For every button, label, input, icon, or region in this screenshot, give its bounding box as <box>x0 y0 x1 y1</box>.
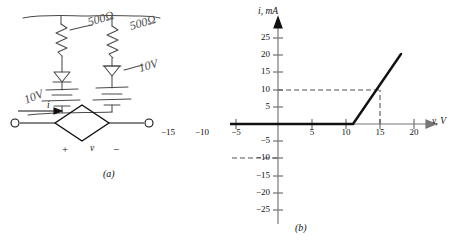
ytick-label--25: −25 <box>240 204 270 214</box>
svg-text:500Ω: 500Ω <box>86 8 116 29</box>
xtick-label-20: 20 <box>394 127 434 137</box>
svg-text:10V: 10V <box>22 86 47 107</box>
handwritten-circuit-sketch: 500Ω 500Ω 10V 10V <box>0 0 230 247</box>
diode-left-triangle <box>54 72 70 82</box>
resistor-right-symbol <box>107 26 118 58</box>
svg-text:10V: 10V <box>137 56 161 75</box>
ytick-label-25: 25 <box>244 32 270 42</box>
caption-panel-a: (a) <box>103 168 115 179</box>
left-terminal-node <box>11 119 19 127</box>
caption-panel-b: (b) <box>295 222 307 233</box>
black-box-diamond-symbol <box>55 105 109 141</box>
polarity-minus-label: − <box>113 143 119 155</box>
ytick-label-5: 5 <box>244 101 270 111</box>
ytick-label-20: 20 <box>244 49 270 59</box>
polarity-plus-label: + <box>62 143 68 155</box>
handwritten-label-10v-left: 10V <box>22 86 47 107</box>
panel-b-iv-characteristic: i, mA v, V −15 −10 −5 5 10 15 20 25 20 1… <box>230 0 463 247</box>
ytick-label--20: −20 <box>240 187 270 197</box>
current-arrow-i <box>18 108 62 114</box>
ytick-label--10: −10 <box>240 152 270 162</box>
svg-text:500Ω: 500Ω <box>128 12 158 33</box>
battery-right-long-plate-2 <box>93 99 131 100</box>
resistor-left-symbol <box>56 24 67 56</box>
battery-right-long-plate-1 <box>96 87 128 88</box>
handwritten-label-500-right: 500Ω <box>128 12 158 33</box>
iv-curve-series <box>230 54 401 247</box>
ytick-label--5: −5 <box>240 135 270 145</box>
ytick-label-10: 10 <box>244 84 270 94</box>
right-terminal-node <box>145 119 153 127</box>
diode-right-triangle <box>104 66 120 76</box>
handwritten-label-10v-right: 10V <box>137 56 161 75</box>
ytick-label--15: −15 <box>240 170 270 180</box>
panel-a-circuit: 500Ω 500Ω 10V 10V <box>0 0 230 247</box>
battery-left-long-plate-1 <box>46 89 78 90</box>
ytick-label-15: 15 <box>244 66 270 76</box>
x-axis-title: v, V <box>432 116 446 126</box>
y-axis-title: i, mA <box>258 6 278 16</box>
voltage-label-v: v <box>90 143 94 153</box>
textbook-figure: 500Ω 500Ω 10V 10V <box>0 0 463 247</box>
current-label-i: i <box>47 100 50 110</box>
handwritten-label-500-left: 500Ω <box>86 8 116 29</box>
y-axis-arrowhead <box>274 17 282 28</box>
